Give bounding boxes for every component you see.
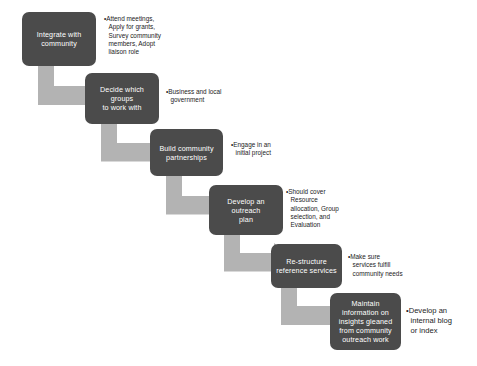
- step-node-5[interactable]: Re-structure reference services: [271, 244, 342, 288]
- step-annotation-3: •Engage in an initial project: [231, 141, 305, 158]
- step-annotation-4: •Should cover Resource allocation, Group…: [286, 188, 356, 230]
- step-node-1[interactable]: Integrate with community: [22, 12, 96, 66]
- step-node-3-label: Build community partnerships: [155, 144, 218, 162]
- step-annotation-5: •Make sure services fulfill community ne…: [348, 253, 414, 278]
- step-node-3[interactable]: Build community partnerships: [150, 129, 223, 176]
- flowchart-canvas: Integrate with community •Attend meeting…: [0, 0, 477, 366]
- step-annotation-2: •Business and local government: [166, 88, 248, 105]
- step-node-5-label: Re-structure reference services: [276, 257, 337, 275]
- step-node-4-label: Develop an outreach plan: [214, 197, 278, 224]
- step-node-2[interactable]: Decide which groups to work with: [85, 73, 159, 124]
- step-node-6-label: Maintain information on insights gleaned…: [335, 299, 396, 344]
- step-annotation-1: •Attend meetings, Apply for grants, Surv…: [104, 15, 182, 57]
- step-annotation-6: •Develop an internal blog or index: [406, 306, 470, 336]
- step-node-4[interactable]: Develop an outreach plan: [209, 185, 283, 235]
- step-node-1-label: Integrate with community: [27, 30, 91, 48]
- step-node-6[interactable]: Maintain information on insights gleaned…: [330, 293, 401, 350]
- step-node-2-label: Decide which groups to work with: [90, 85, 154, 112]
